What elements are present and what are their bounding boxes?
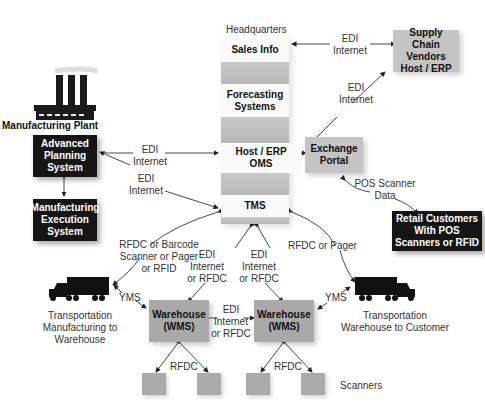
label-exchange-supply: EDI Internet bbox=[338, 82, 374, 106]
factory-icon bbox=[30, 65, 100, 120]
hq-divider bbox=[221, 62, 289, 84]
label-rfdc-left: RFDC bbox=[170, 361, 198, 373]
label-tms-wh-right: EDI Internet or RFDC bbox=[238, 249, 280, 285]
hq-divider bbox=[221, 217, 289, 224]
headquarters-column: Sales Info Forecasting Systems Host / ER… bbox=[221, 37, 289, 224]
label-yms-right: YMS bbox=[325, 292, 347, 304]
label-aps-oms: EDI Internet bbox=[132, 144, 168, 168]
warehouse-left-box[interactable]: Warehouse (WMS) bbox=[149, 300, 209, 342]
warehouse-right-box[interactable]: Warehouse (WMS) bbox=[254, 300, 314, 342]
label-sales-supply: EDI Internet bbox=[332, 33, 368, 57]
scanners-label: Scanners bbox=[340, 380, 382, 392]
retail-customers-box[interactable]: Retail Customers With POS Scanners or RF… bbox=[392, 211, 482, 251]
truck-right-icon bbox=[353, 277, 419, 301]
hq-divider bbox=[221, 173, 289, 195]
hq-sales-info[interactable]: Sales Info bbox=[221, 37, 289, 62]
label-rfdc-right: RFDC bbox=[274, 361, 302, 373]
hq-host-erp-oms[interactable]: Host / ERP OMS bbox=[221, 143, 301, 173]
supply-chain-vendors-box[interactable]: Supply Chain Vendors Host / ERP bbox=[393, 30, 459, 72]
exchange-portal-box[interactable]: Exchange Portal bbox=[305, 137, 363, 173]
transport-left-label: Transportation Manufacturing to Warehous… bbox=[20, 310, 140, 346]
headquarters-title: Headquarters bbox=[226, 24, 287, 36]
scanner-box[interactable] bbox=[142, 373, 166, 395]
hq-divider bbox=[221, 117, 289, 143]
scanner-box[interactable] bbox=[301, 373, 325, 395]
truck-left-icon bbox=[45, 277, 111, 301]
transport-right-text: Transportation Warehouse to Customer bbox=[340, 310, 450, 334]
label-pos-data: POS Scanner Data bbox=[345, 178, 425, 202]
hq-forecasting[interactable]: Forecasting Systems bbox=[221, 84, 289, 117]
label-tms-truck-right: RFDC or Pager bbox=[288, 240, 357, 252]
scanner-box[interactable] bbox=[246, 373, 270, 395]
label-aps-tms: EDI Internet bbox=[128, 173, 164, 197]
label-tms-wh-left: EDI Internet or RFDC bbox=[186, 249, 228, 285]
transport-left-text: Transportation Manufacturing to Warehous… bbox=[20, 310, 140, 346]
hq-tms[interactable]: TMS bbox=[221, 195, 289, 217]
label-yms-left: YMS bbox=[119, 292, 141, 304]
scanner-box[interactable] bbox=[197, 373, 221, 395]
manufacturing-execution-box[interactable]: Manufacturing Execution System bbox=[33, 199, 97, 241]
label-wh-wh: EDI Internet or RFDC bbox=[211, 304, 251, 340]
transport-right-label: Transportation Warehouse to Customer bbox=[340, 310, 450, 334]
advanced-planning-box[interactable]: Advanced Planning System bbox=[33, 135, 97, 177]
manufacturing-plant-label: Manufacturing Plant bbox=[2, 120, 98, 132]
